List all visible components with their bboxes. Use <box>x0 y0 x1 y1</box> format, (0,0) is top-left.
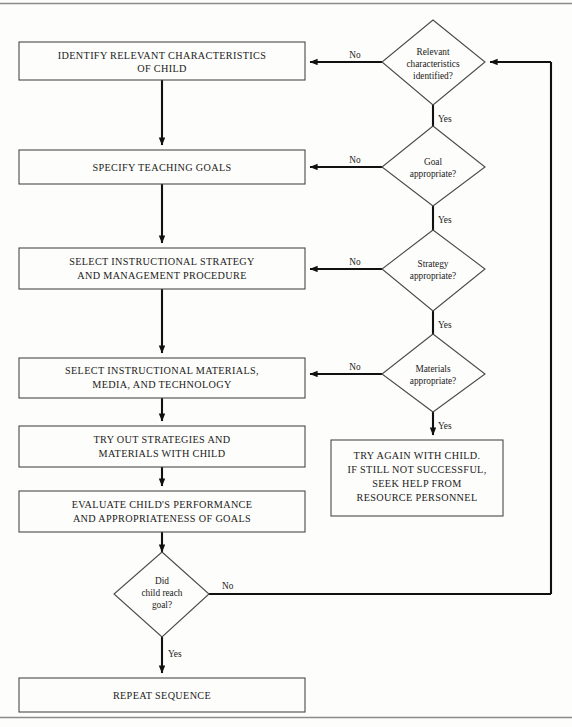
label-no-relevant: No <box>349 50 361 60</box>
decision-goal-line-1: Goal <box>424 157 442 167</box>
node-evaluate-line-2: AND APPROPRIATENESS OF GOALS <box>73 513 251 524</box>
node-tryout-line-2: MATERIALS WITH CHILD <box>99 448 226 459</box>
label-yes-strategy: Yes <box>438 320 452 330</box>
decision-relevant-line-1: Relevant <box>416 47 449 57</box>
node-evaluate-child-performance[interactable]: EVALUATE CHILD'S PERFORMANCE AND APPROPR… <box>19 491 305 532</box>
node-goals-line-1: SPECIFY TEACHING GOALS <box>92 162 231 173</box>
node-tryout-line-1: TRY OUT STRATEGIES AND <box>93 434 230 445</box>
node-try-again-with-child[interactable]: TRY AGAIN WITH CHILD. IF STILL NOT SUCCE… <box>331 440 503 516</box>
decision-reachgoal-line-3: goal? <box>152 600 172 610</box>
decision-reachgoal-line-1: Did <box>155 576 169 586</box>
decision-materials-appropriate[interactable]: Materials appropriate? <box>382 334 485 412</box>
decision-strategy-line-1: Strategy <box>418 259 449 269</box>
node-strategy-line-1: SELECT INSTRUCTIONAL STRATEGY <box>69 256 255 267</box>
decision-strategy-line-2: appropriate? <box>410 271 456 281</box>
decision-strategy-appropriate[interactable]: Strategy appropriate? <box>382 230 485 311</box>
decision-materials-line-1: Materials <box>415 364 450 374</box>
node-materials-line-2: MEDIA, AND TECHNOLOGY <box>92 379 232 390</box>
node-identify-line-1: IDENTIFY RELEVANT CHARACTERISTICS <box>58 50 266 61</box>
decision-relevant-characteristics[interactable]: Relevant characteristics identified? <box>382 20 485 105</box>
node-tryagain-line-1: TRY AGAIN WITH CHILD. <box>354 450 481 461</box>
node-strategy-line-2: AND MANAGEMENT PROCEDURE <box>77 270 247 281</box>
label-no-goal: No <box>349 155 361 165</box>
node-tryagain-line-4: RESOURCE PERSONNEL <box>357 492 478 503</box>
decision-goal-line-2: appropriate? <box>410 169 456 179</box>
node-identify-relevant-characteristics[interactable]: IDENTIFY RELEVANT CHARACTERISTICS OF CHI… <box>19 42 305 80</box>
flowchart-canvas: IDENTIFY RELEVANT CHARACTERISTICS OF CHI… <box>0 0 572 727</box>
node-select-instructional-strategy[interactable]: SELECT INSTRUCTIONAL STRATEGY AND MANAGE… <box>19 248 305 289</box>
flowchart-page: IDENTIFY RELEVANT CHARACTERISTICS OF CHI… <box>0 0 572 727</box>
node-evaluate-line-1: EVALUATE CHILD'S PERFORMANCE <box>72 499 253 510</box>
node-materials-line-1: SELECT INSTRUCTIONAL MATERIALS, <box>65 365 259 376</box>
decision-did-child-reach-goal[interactable]: Did child reach goal? <box>114 552 209 637</box>
decision-goal-appropriate[interactable]: Goal appropriate? <box>382 126 485 206</box>
label-no-materials: No <box>349 362 361 372</box>
decision-reachgoal-line-2: child reach <box>141 588 182 598</box>
node-try-out-strategies[interactable]: TRY OUT STRATEGIES AND MATERIALS WITH CH… <box>19 426 305 467</box>
node-tryagain-line-3: SEEK HELP FROM <box>372 478 461 489</box>
node-select-instructional-materials[interactable]: SELECT INSTRUCTIONAL MATERIALS, MEDIA, A… <box>19 358 305 398</box>
label-no-strategy: No <box>349 257 361 267</box>
decision-materials-line-2: appropriate? <box>410 376 456 386</box>
label-yes-reachgoal: Yes <box>168 649 182 659</box>
node-tryagain-line-2: IF STILL NOT SUCCESSFUL, <box>347 464 486 475</box>
node-specify-teaching-goals[interactable]: SPECIFY TEACHING GOALS <box>19 150 305 184</box>
decision-relevant-line-3: identified? <box>413 71 453 81</box>
label-yes-materials: Yes <box>438 421 452 431</box>
decision-relevant-line-2: characteristics <box>406 59 460 69</box>
label-yes-relevant: Yes <box>438 114 452 124</box>
node-repeat-line-1: REPEAT SEQUENCE <box>113 690 211 701</box>
label-no-reachgoal: No <box>222 581 234 591</box>
node-identify-line-2: OF CHILD <box>137 63 187 74</box>
label-yes-goal: Yes <box>438 215 452 225</box>
node-repeat-sequence[interactable]: REPEAT SEQUENCE <box>19 678 305 712</box>
